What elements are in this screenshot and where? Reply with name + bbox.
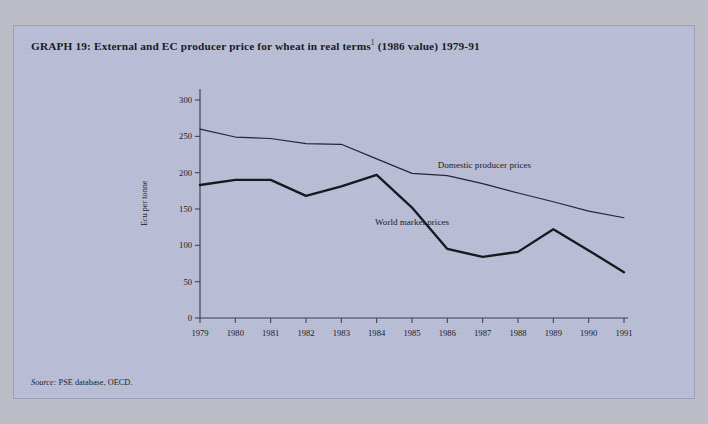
x-tick-label: 1981 [262, 328, 279, 338]
figure-title-suffix: (1986 value) 1979-91 [378, 40, 480, 52]
x-tick-label: 1983 [333, 328, 350, 338]
y-tick-label: 0 [188, 313, 192, 323]
x-tick-label: 1980 [227, 328, 244, 338]
chart-canvas: 050100150200250300 197919801981198219831… [186, 100, 630, 352]
y-axis-label: Ecu per tonne [140, 181, 149, 226]
x-tick-label: 1988 [509, 328, 526, 338]
x-tick-label: 1982 [297, 328, 314, 338]
line-chart-plot: 050100150200250300 197919801981198219831… [186, 100, 630, 352]
figure-panel: GRAPH 19: External and EC producer price… [14, 26, 694, 398]
x-tick-label: 1984 [368, 328, 386, 338]
x-tick-label: 1991 [615, 328, 632, 338]
series-label: Domestic producer prices [438, 160, 532, 170]
series-line-domestic-producer-prices [200, 129, 624, 218]
x-tick-label: 1985 [403, 328, 420, 338]
y-tick-label: 250 [179, 131, 192, 141]
x-tick-label: 1990 [580, 328, 597, 338]
x-tick-label: 1986 [439, 328, 457, 338]
x-tick-label: 1989 [545, 328, 562, 338]
x-tick-label: 1979 [191, 328, 208, 338]
x-axis-ticks: 1979198019811982198319841985198619871988… [191, 318, 632, 338]
y-tick-label: 200 [179, 168, 192, 178]
y-tick-label: 300 [179, 95, 192, 105]
y-tick-label: 150 [179, 204, 192, 214]
x-tick-label: 1987 [474, 328, 492, 338]
source-label: Source: [31, 378, 57, 387]
figure-title: GRAPH 19: External and EC producer price… [31, 38, 480, 52]
y-axis-ticks: 050100150200250300 [179, 95, 200, 323]
figure-title-prefix: GRAPH 19: [31, 40, 91, 52]
source-text: PSE database, OECD. [59, 378, 133, 387]
y-tick-label: 50 [183, 277, 192, 287]
figure-title-main: External and EC producer price for wheat… [94, 40, 371, 52]
source-note: Source: PSE database, OECD. [31, 378, 132, 387]
y-tick-label: 100 [179, 240, 192, 250]
figure-title-footnote-marker: 1 [371, 38, 375, 47]
series-label: World market prices [375, 217, 449, 227]
